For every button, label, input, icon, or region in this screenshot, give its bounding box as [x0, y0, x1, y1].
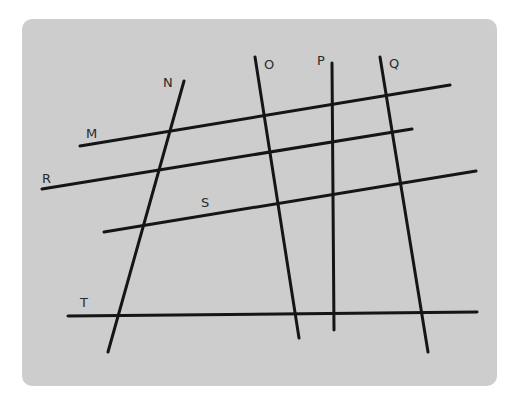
line-label: T [79, 295, 88, 310]
line-segment [380, 57, 428, 352]
line-label: N [163, 75, 173, 90]
line-label: S [201, 195, 209, 210]
line-o: O [255, 57, 299, 338]
line-segment [68, 312, 477, 316]
line-n: N [108, 75, 184, 352]
line-segment [332, 63, 334, 330]
line-diagram: MRSTNOPQ [0, 0, 519, 409]
line-s: S [104, 171, 476, 232]
line-label: R [42, 171, 51, 186]
line-segment [42, 129, 412, 189]
line-label: P [317, 53, 325, 68]
line-label: M [86, 126, 97, 141]
line-r: R [42, 129, 412, 189]
line-p: P [317, 53, 334, 330]
line-label: O [264, 57, 274, 72]
line-q: Q [380, 56, 428, 352]
line-t: T [68, 295, 477, 316]
line-label: Q [389, 56, 399, 71]
line-segment [255, 57, 299, 338]
line-segment [104, 171, 476, 232]
line-segment [108, 81, 184, 352]
